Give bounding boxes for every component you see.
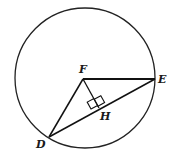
label-E: E [157,73,167,86]
segment-DE [49,79,155,137]
right-angle-marker [87,96,104,109]
label-F: F [78,63,88,76]
label-H: H [99,110,111,123]
circle [15,8,155,148]
circle-diagram: F E D H [0,0,175,156]
label-D: D [35,138,46,151]
